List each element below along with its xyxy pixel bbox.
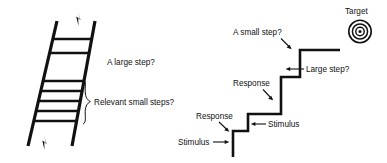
ladder-diagram: A large step? Relevant small steps?	[28, 11, 175, 150]
label-target: Target	[345, 7, 368, 16]
label-response-lower: Response	[196, 112, 233, 121]
arrow-pointer-icon	[281, 39, 292, 50]
up-arrow-icon	[42, 135, 46, 150]
label-large-step: A large step?	[107, 58, 155, 67]
ladder-left-rail	[28, 21, 57, 146]
label-stimulus-lower: Stimulus	[178, 138, 209, 147]
figure-svg: A large step? Relevant small steps? Targ…	[0, 0, 387, 163]
arrow-pointer-icon	[251, 122, 266, 126]
arrow-pointer-icon	[219, 122, 229, 132]
figure-canvas: A large step? Relevant small steps? Targ…	[0, 0, 387, 163]
arrow-pointer-icon	[263, 90, 273, 101]
label-large-step-right: Large step?	[306, 65, 350, 74]
label-a-small-step: A small step?	[233, 28, 282, 37]
label-response-upper: Response	[233, 79, 270, 88]
staircase-diagram: Target A small step? Large step? Respons…	[178, 7, 371, 157]
bullseye-icon	[349, 20, 371, 42]
up-arrow-icon	[76, 11, 80, 26]
label-relevant-small-steps: Relevant small steps?	[94, 98, 175, 107]
arrow-pointer-icon	[213, 140, 229, 144]
label-stimulus-upper: Stimulus	[268, 120, 299, 129]
